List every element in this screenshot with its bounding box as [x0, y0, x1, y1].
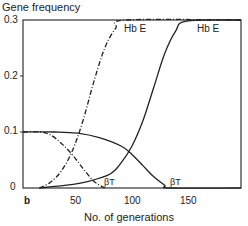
annotation-hbe-dashdot: Hb E: [124, 24, 146, 34]
y-tick-0.1: 0.1: [4, 126, 18, 136]
annotation-bt-dashdot: βT: [104, 177, 115, 187]
x-tick-100: 100: [124, 196, 141, 206]
y-tick-0.2: 0.2: [4, 71, 18, 81]
y-tick-0: 0: [10, 182, 16, 192]
x-tick-150: 150: [180, 196, 197, 206]
annotation-bt-solid: βT: [170, 177, 181, 187]
series-line-1: [23, 132, 241, 188]
y-axis-label: Gene frequency: [2, 2, 80, 12]
y-tick-0.3: 0.3: [4, 15, 18, 25]
x-tick-50: 50: [70, 196, 81, 206]
x-axis-label: No. of generations: [84, 212, 174, 222]
series-lines: [23, 19, 241, 188]
panel-label: b: [24, 196, 30, 206]
plot-frame: [23, 20, 241, 188]
annotation-hbe-solid: Hb E: [197, 24, 219, 34]
